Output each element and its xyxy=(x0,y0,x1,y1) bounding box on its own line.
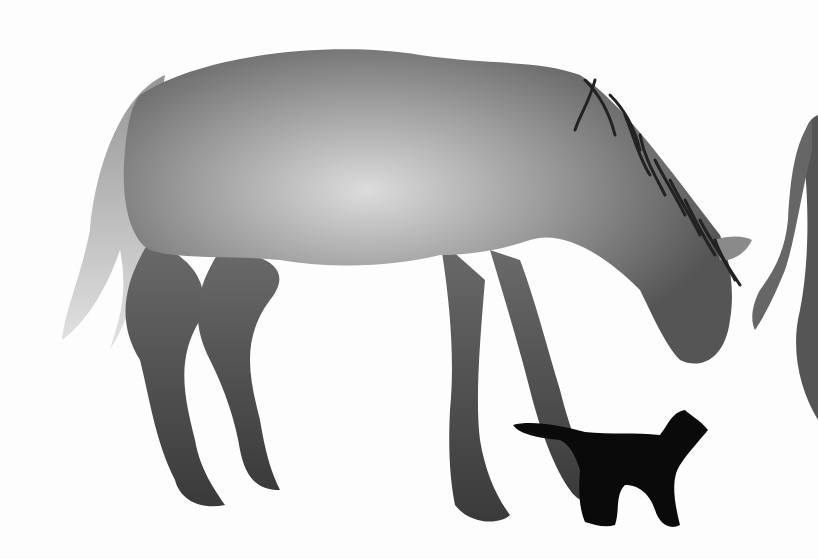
horse-front-leg-left xyxy=(440,240,510,522)
cat-silhouette xyxy=(513,410,708,527)
horse-and-cat-illustration xyxy=(0,0,818,559)
illustration xyxy=(0,0,818,559)
horse-back-leg-right xyxy=(198,250,280,490)
